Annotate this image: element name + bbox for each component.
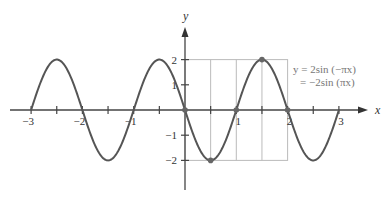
x-tick-label: 3 xyxy=(338,115,344,127)
y-tick-label: −2 xyxy=(165,154,177,166)
equation-annotation: y = 2sin (−πx) = −2sin (πx) xyxy=(293,63,356,89)
key-point xyxy=(182,107,188,113)
key-point xyxy=(234,107,240,113)
sine-chart: x y −3−2−112321−1−2 y = 2sin (−πx) = −2s… xyxy=(0,0,387,198)
x-tick-label: −3 xyxy=(22,115,34,127)
key-point xyxy=(208,158,214,164)
y-axis-arrow xyxy=(182,27,189,37)
y-tick-label: −1 xyxy=(165,129,177,141)
y-axis-label: y xyxy=(182,9,189,23)
x-axis-arrow xyxy=(358,107,368,114)
x-tick-label: −2 xyxy=(74,115,86,127)
equation-line-1: y = 2sin (−πx) xyxy=(293,63,356,76)
x-tick-label: 1 xyxy=(236,115,242,127)
x-axis-label: x xyxy=(374,103,381,117)
key-point xyxy=(259,57,265,63)
equation-line-2: = −2sin (πx) xyxy=(300,76,355,89)
y-tick-label: 2 xyxy=(172,54,178,66)
axes: x y xyxy=(10,9,381,190)
key-point xyxy=(285,107,291,113)
